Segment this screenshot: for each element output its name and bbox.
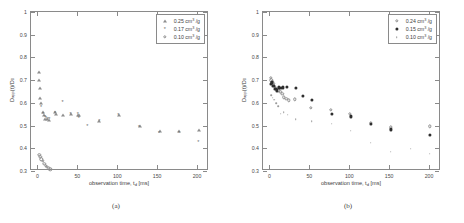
data-point (309, 106, 312, 109)
data-point: * (196, 140, 200, 144)
data-point (311, 121, 313, 123)
x-tick-b (389, 165, 390, 169)
y-tick-label-b: 0.9 (252, 32, 259, 38)
y-tick-b (263, 80, 267, 81)
x-tick-label-a: 200 (193, 173, 202, 179)
legend-marker-icon: * (160, 25, 173, 33)
data-point: * (97, 119, 101, 123)
panel-b: 0501001502000.30.40.50.60.70.80.910.24 c… (232, 0, 464, 223)
data-point (295, 118, 297, 120)
x-tick-b (349, 165, 350, 169)
y-axis-title-b: Dapp(t)/D0 (241, 78, 248, 102)
data-point (370, 122, 373, 125)
y-tick-label-b: 1 (256, 9, 259, 15)
y-tick-label-a: 0.7 (20, 77, 27, 83)
data-point (301, 94, 304, 97)
legend-marker-icon (392, 25, 405, 33)
y-tick-label-a: 0.8 (20, 54, 27, 60)
legend-a: 0.25 cm3 /g*0.17 cm3 /g0.10 cm3 /g (156, 14, 205, 44)
data-point (277, 105, 279, 107)
y-tick-label-b: 0.8 (252, 54, 259, 60)
y-tick-label-a: 0.4 (20, 145, 27, 151)
y-tick-label-a: 0.3 (20, 168, 27, 174)
data-point: * (53, 111, 57, 115)
data-point (330, 112, 333, 115)
panel-caption-b: (b) (232, 202, 464, 210)
legend-label: 0.17 cm3 /g (173, 26, 200, 32)
y-tick-label-b: 0.5 (252, 123, 259, 129)
x-tick-label-b: 200 (425, 173, 434, 179)
legend-b: 0.24 cm3 /g0.15 cm3 /g0.10 cm3 /g (388, 14, 437, 44)
x-axis-title-b: observation time, td [ms] (321, 180, 381, 187)
x-tick-top-b (349, 12, 350, 16)
legend-item: 0.10 cm3 /g (160, 33, 200, 41)
x-tick-a (197, 165, 198, 169)
x-tick-top-b (269, 12, 270, 16)
data-point (370, 142, 372, 144)
data-point (38, 97, 42, 100)
y-tick-right-b (435, 126, 439, 127)
data-point: * (177, 131, 181, 135)
data-point: * (47, 117, 51, 121)
legend-label: 0.24 cm3 /g (405, 18, 432, 24)
legend-item: 0.10 cm3 /g (392, 33, 432, 41)
y-tick-b (263, 148, 267, 149)
x-tick-top-b (309, 12, 310, 16)
y-tick-label-b: 0.3 (252, 168, 259, 174)
y-tick-a (31, 80, 35, 81)
x-tick-top-a (37, 12, 38, 16)
y-tick-right-a (203, 126, 207, 127)
x-tick-label-b: 50 (306, 173, 312, 179)
legend-marker-icon (392, 17, 405, 25)
data-point: * (61, 100, 65, 104)
y-tick-a (31, 126, 35, 127)
x-tick-label-a: 100 (113, 173, 122, 179)
y-tick-a (31, 12, 35, 13)
data-point: * (39, 105, 43, 109)
data-point (389, 128, 392, 131)
x-tick-a (77, 165, 78, 169)
data-point (350, 130, 352, 132)
panel-caption-a: (a) (0, 202, 232, 210)
x-tick-label-b: 100 (345, 173, 354, 179)
data-point (285, 85, 288, 88)
data-point (293, 98, 296, 101)
data-point (428, 125, 431, 128)
y-tick-label-b: 0.6 (252, 100, 259, 106)
legend-marker-icon (160, 17, 173, 25)
y-tick-b (263, 12, 267, 13)
y-tick-right-b (435, 57, 439, 58)
x-tick-top-a (77, 12, 78, 16)
data-point: * (137, 125, 141, 129)
legend-item: 0.15 cm3 /g (392, 25, 432, 33)
data-point (429, 134, 432, 137)
y-tick-right-a (203, 80, 207, 81)
legend-item: 0.25 cm3 /g (160, 17, 200, 25)
y-tick-right-a (203, 57, 207, 58)
y-tick-a (31, 103, 35, 104)
data-point: * (69, 112, 73, 116)
x-tick-a (117, 165, 118, 169)
figure-container: 0501001502000.30.40.50.60.70.80.91******… (0, 0, 464, 223)
data-point (273, 99, 275, 101)
data-point (287, 114, 289, 116)
x-axis-title-a: observation time, td [ms] (89, 180, 149, 187)
y-tick-right-a (203, 12, 207, 13)
data-point (287, 98, 290, 101)
y-tick-label-a: 0.5 (20, 123, 27, 129)
data-point: * (157, 131, 161, 135)
x-tick-b (269, 165, 270, 169)
data-point: * (85, 124, 89, 128)
data-point (331, 123, 333, 125)
x-tick-label-b: 150 (385, 173, 394, 179)
legend-label: 0.10 cm3 /g (405, 34, 432, 40)
y-tick-a (31, 35, 35, 36)
y-tick-a (31, 57, 35, 58)
x-tick-label-a: 50 (74, 173, 80, 179)
data-point (197, 129, 201, 132)
data-point (37, 71, 41, 74)
y-tick-b (263, 57, 267, 58)
legend-item: 0.24 cm3 /g (392, 17, 432, 25)
legend-label: 0.10 cm3 /g (173, 34, 200, 40)
data-point (410, 148, 412, 150)
